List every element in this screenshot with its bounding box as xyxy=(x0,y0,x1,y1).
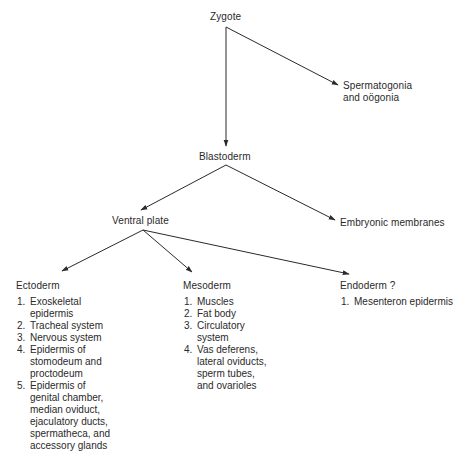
item-number: 1. xyxy=(184,296,192,308)
item-text: genital chamber, xyxy=(30,392,110,404)
item-number: 2. xyxy=(184,308,192,320)
item-text: spermatheca, and xyxy=(30,428,110,440)
item-text: sperm tubes, xyxy=(197,368,266,380)
node-blastoderm: Blastoderm xyxy=(199,151,251,163)
item-text: and ovarioles xyxy=(197,380,266,392)
item-number: 3. xyxy=(184,320,192,332)
endoderm-derivatives-list: 1. Mesenteron epidermis xyxy=(341,296,453,308)
item-text: ejaculatory ducts, xyxy=(30,416,110,428)
item-number: 5. xyxy=(17,380,25,392)
mesoderm-item-2: 2. Fat body xyxy=(184,308,266,320)
item-text: Exoskeletal xyxy=(30,296,110,308)
item-number: 1. xyxy=(17,296,25,308)
item-text: median oviduct, xyxy=(30,404,110,416)
item-text: Nervous system xyxy=(30,332,110,344)
item-text: Mesenteron epidermis xyxy=(354,296,453,308)
item-text: accessory glands xyxy=(30,440,110,452)
mesoderm-item-4: 4. Vas deferens, lateral oviducts, sperm… xyxy=(184,344,266,392)
ectoderm-item-5: 5. Epidermis of genital chamber, median … xyxy=(17,380,110,452)
item-text: Vas deferens, xyxy=(197,344,266,356)
edge-ventralplate-endoderm xyxy=(143,230,349,274)
node-zygote: Zygote xyxy=(210,11,241,23)
node-mesoderm: Mesoderm xyxy=(183,280,231,292)
mesoderm-item-1: 1. Muscles xyxy=(184,296,266,308)
mesoderm-derivatives-list: 1. Muscles 2. Fat body 3. Circulatory sy… xyxy=(184,296,266,392)
item-text: stomodeum and xyxy=(30,356,110,368)
item-number: 2. xyxy=(17,320,25,332)
mesoderm-item-3: 3. Circulatory system xyxy=(184,320,266,344)
ectoderm-item-1: 1. Exoskeletal epidermis xyxy=(17,296,110,320)
edge-zygote-germcells xyxy=(226,27,338,85)
item-text: Muscles xyxy=(197,296,266,308)
ectoderm-item-4: 4. Epidermis of stomodeum and proctodeum xyxy=(17,344,110,380)
node-germ-cells-line2: and oögonia xyxy=(343,92,399,104)
edge-blastoderm-membranes xyxy=(226,165,335,220)
item-text: Fat body xyxy=(197,308,266,320)
item-text: Epidermis of xyxy=(30,380,110,392)
ectoderm-item-2: 2. Tracheal system xyxy=(17,320,110,332)
item-text: Tracheal system xyxy=(30,320,110,332)
item-text: epidermis xyxy=(30,308,110,320)
item-number: 4. xyxy=(184,344,192,356)
ectoderm-item-3: 3. Nervous system xyxy=(17,332,110,344)
ectoderm-derivatives-list: 1. Exoskeletal epidermis 2. Tracheal sys… xyxy=(17,296,110,452)
edge-ventralplate-ectoderm xyxy=(62,230,143,271)
item-text: Circulatory xyxy=(197,320,266,332)
node-germ-cells-line1: Spermatogonia xyxy=(343,80,412,92)
node-ectoderm: Ectoderm xyxy=(16,280,60,292)
embryonic-derivation-diagram: Zygote Spermatogonia and oögonia Blastod… xyxy=(0,0,463,465)
edge-blastoderm-ventralplate xyxy=(141,165,226,210)
item-number: 4. xyxy=(17,344,25,356)
edge-ventralplate-mesoderm xyxy=(143,230,192,272)
item-number: 1. xyxy=(341,296,349,308)
node-ventral-plate: Ventral plate xyxy=(112,215,169,227)
node-endoderm: Endoderm ? xyxy=(340,280,395,292)
endoderm-item-1: 1. Mesenteron epidermis xyxy=(341,296,453,308)
item-text: proctodeum xyxy=(30,368,110,380)
item-text: Epidermis of xyxy=(30,344,110,356)
item-number: 3. xyxy=(17,332,25,344)
item-text: lateral oviducts, xyxy=(197,356,266,368)
node-embryonic-membranes: Embryonic membranes xyxy=(340,217,445,229)
item-text: system xyxy=(197,332,266,344)
